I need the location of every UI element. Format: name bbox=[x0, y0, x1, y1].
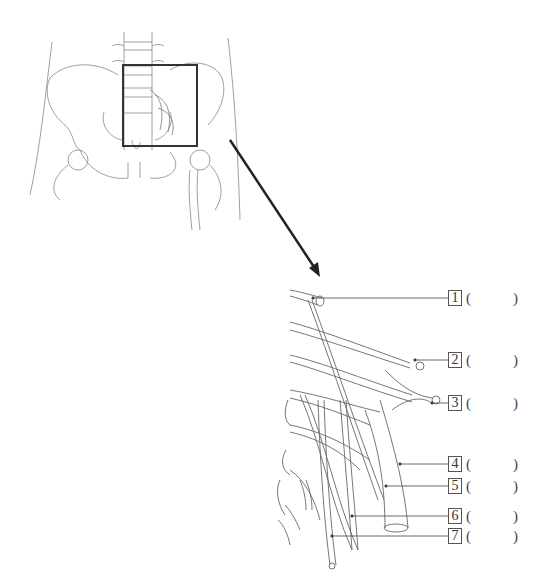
callout-5: 5 ( ) bbox=[448, 476, 518, 496]
callout-4: 4 ( ) bbox=[448, 454, 518, 474]
leader-lines bbox=[312, 297, 448, 537]
plexus-detail bbox=[278, 290, 440, 569]
callout-number: 1 bbox=[448, 290, 462, 306]
highlight-box bbox=[123, 65, 197, 146]
callout-6: 6 ( ) bbox=[448, 506, 518, 526]
callout-1: 1 ( ) bbox=[448, 288, 518, 308]
callout-number: 5 bbox=[448, 478, 462, 494]
callout-2: 2 ( ) bbox=[448, 350, 518, 370]
pelvis-overview bbox=[30, 32, 240, 230]
magnify-arrow bbox=[230, 140, 320, 277]
callout-number: 3 bbox=[448, 395, 462, 411]
callout-3: 3 ( ) bbox=[448, 393, 518, 413]
callout-number: 7 bbox=[448, 528, 462, 544]
callout-number: 6 bbox=[448, 508, 462, 524]
callout-number: 2 bbox=[448, 352, 462, 368]
callout-7: 7 ( ) bbox=[448, 526, 518, 546]
callout-number: 4 bbox=[448, 456, 462, 472]
